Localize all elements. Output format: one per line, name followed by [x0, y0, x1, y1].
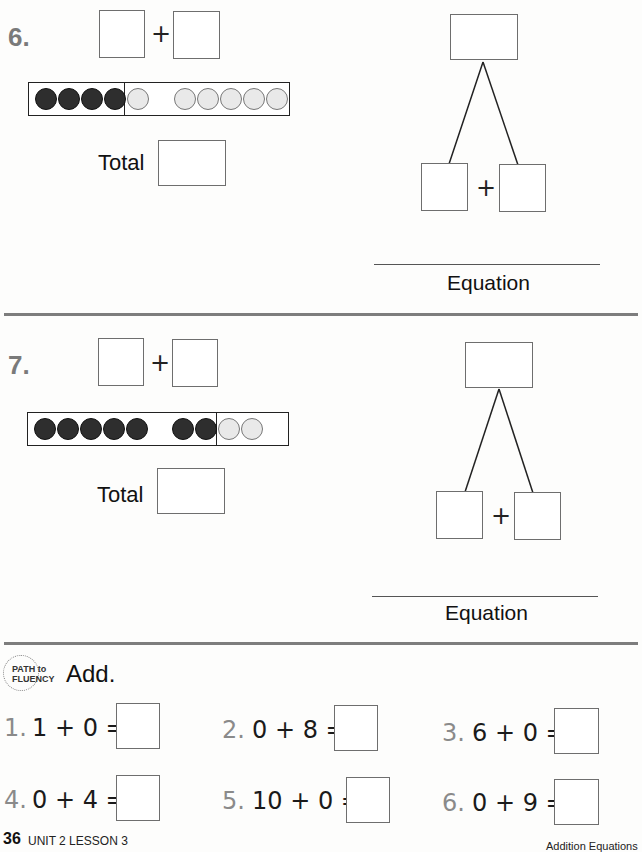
counter-filled	[58, 88, 80, 110]
counter-empty	[241, 418, 263, 440]
section-divider	[4, 642, 638, 645]
fluency-item-expression: 0 + 8 =	[252, 716, 346, 744]
fluency-item-expression: 1 + 0 =	[32, 714, 126, 742]
counter-filled	[57, 418, 79, 440]
total-label: Total	[97, 482, 143, 508]
fluency-item-number: 4.	[4, 786, 27, 814]
counter-empty	[218, 418, 240, 440]
counter-filled	[103, 418, 125, 440]
bond-lines	[430, 387, 540, 495]
equation-label: Equation	[447, 271, 530, 295]
addend-2-box[interactable]	[173, 11, 220, 59]
addend-1-box[interactable]	[99, 10, 145, 58]
counter-empty	[127, 88, 149, 110]
plus-sign: +	[151, 22, 171, 46]
counter-empty	[220, 88, 242, 110]
bond-part-2-box[interactable]	[499, 164, 546, 212]
answer-box[interactable]	[346, 777, 390, 823]
bond-whole-box[interactable]	[465, 342, 533, 388]
counter-filled	[104, 88, 126, 110]
footer-title: Addition Equations	[546, 840, 638, 852]
counter-filled	[80, 418, 102, 440]
equation-label: Equation	[445, 601, 528, 625]
fluency-item-expression: 6 + 0 =	[472, 719, 566, 747]
fluency-item-number: 5.	[222, 787, 245, 815]
counter-filled	[172, 418, 194, 440]
counter-filled	[34, 418, 56, 440]
fluency-item-expression: 0 + 4 =	[32, 786, 126, 814]
total-label: Total	[98, 150, 144, 176]
bond-plus-sign: +	[476, 176, 496, 200]
counter-empty	[197, 88, 219, 110]
problem-number: 7.	[8, 350, 30, 381]
counter-empty	[174, 88, 196, 110]
total-box[interactable]	[157, 468, 225, 514]
answer-box[interactable]	[334, 705, 378, 751]
page-number: 36	[3, 830, 21, 848]
equation-line[interactable]	[374, 264, 600, 265]
fluency-item-expression: 0 + 9 =	[472, 789, 566, 817]
counter-filled	[81, 88, 103, 110]
fluency-item-number: 3.	[442, 719, 465, 747]
fluency-item-expression: 10 + 0 =	[252, 787, 361, 815]
counter-filled	[126, 418, 148, 440]
answer-box[interactable]	[554, 708, 599, 754]
instruction: Add.	[66, 660, 115, 688]
section-divider	[4, 313, 638, 316]
lesson-label: UNIT 2 LESSON 3	[28, 834, 128, 848]
fluency-item-number: 6.	[442, 789, 465, 817]
total-box[interactable]	[158, 140, 226, 186]
counter-empty	[266, 88, 288, 110]
answer-box[interactable]	[116, 703, 160, 749]
answer-box[interactable]	[554, 779, 599, 825]
badge-line-1: PATH to	[12, 664, 46, 674]
counter-filled	[195, 418, 217, 440]
plus-sign: +	[150, 351, 170, 375]
addend-2-box[interactable]	[172, 339, 218, 387]
problem-number: 6.	[8, 22, 30, 53]
bond-part-1-box[interactable]	[421, 163, 468, 211]
bond-lines	[420, 58, 530, 166]
counter-empty	[243, 88, 265, 110]
fluency-item-number: 2.	[222, 716, 245, 744]
answer-box[interactable]	[116, 775, 160, 821]
bond-part-1-box[interactable]	[436, 491, 483, 539]
bond-part-2-box[interactable]	[514, 492, 561, 540]
fluency-item-number: 1.	[4, 714, 27, 742]
equation-line[interactable]	[372, 596, 598, 597]
counter-filled	[35, 88, 57, 110]
badge-line-2: FLUENCY	[12, 674, 55, 684]
bond-plus-sign: +	[491, 504, 511, 528]
bond-whole-box[interactable]	[450, 14, 518, 60]
addend-1-box[interactable]	[98, 338, 144, 386]
